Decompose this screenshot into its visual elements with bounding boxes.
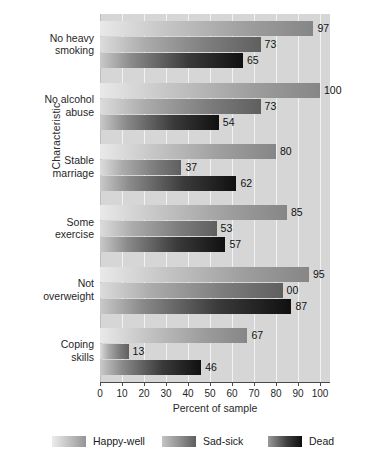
bar-value-label: 80 <box>280 144 292 159</box>
bar-value-label: 97 <box>317 21 329 36</box>
bar <box>100 115 219 130</box>
gridline-60 <box>232 14 233 382</box>
legend-item: Dead <box>268 435 334 447</box>
bar-value-label: 65 <box>247 53 259 68</box>
category-label-line: No alcohol <box>8 93 94 106</box>
bar <box>100 205 287 220</box>
bar-value-label: 100 <box>324 83 342 98</box>
x-tick-20 <box>144 382 145 386</box>
bar <box>100 283 283 298</box>
gridline-20 <box>144 14 145 382</box>
legend-label: Sad-sick <box>203 435 243 447</box>
bar <box>100 237 225 252</box>
gridline-0 <box>100 14 101 382</box>
bar <box>100 360 201 375</box>
bar-value-label: 62 <box>240 176 252 191</box>
x-tick-0 <box>100 382 101 386</box>
category-label-line: Not <box>8 277 94 290</box>
legend-swatch <box>268 436 302 447</box>
category-label-line: marriage <box>8 167 94 180</box>
legend-swatch <box>162 436 196 447</box>
bar <box>100 99 261 114</box>
bar-value-label: 87 <box>295 299 307 314</box>
x-tick-50 <box>210 382 211 386</box>
bar <box>100 299 291 314</box>
gridline-70 <box>254 14 255 382</box>
bar <box>100 344 129 359</box>
gridline-80 <box>276 14 277 382</box>
category-label-line: No heavy <box>8 32 94 45</box>
x-axis-title: Percent of sample <box>100 402 330 414</box>
bar <box>100 160 181 175</box>
x-axis-line <box>100 382 330 383</box>
bar-value-label: 46 <box>205 360 217 375</box>
bar-value-label: 57 <box>229 237 241 252</box>
category-label-line: skills <box>8 351 94 364</box>
category-label-line: exercise <box>8 228 94 241</box>
bar-value-label: 00 <box>287 283 299 298</box>
category-label-line: overweight <box>8 290 94 303</box>
bar <box>100 267 309 282</box>
bar-value-label: 85 <box>291 205 303 220</box>
bar <box>100 176 236 191</box>
category-label: Notoverweight <box>8 277 94 302</box>
bar <box>100 37 261 52</box>
category-label: No alcoholabuse <box>8 93 94 118</box>
bar-value-label: 95 <box>313 267 325 282</box>
x-tick-80 <box>276 382 277 386</box>
bar <box>100 221 217 236</box>
category-label: Someexercise <box>8 216 94 241</box>
legend-label: Dead <box>309 435 334 447</box>
category-label-line: smoking <box>8 44 94 57</box>
gridline-50 <box>210 14 211 382</box>
bar-value-label: 54 <box>223 115 235 130</box>
x-tick-60 <box>232 382 233 386</box>
x-tick-100 <box>320 382 321 386</box>
category-label-line: Coping <box>8 338 94 351</box>
bar <box>100 83 320 98</box>
legend-item: Happy-well <box>52 435 145 447</box>
bar-value-label: 67 <box>251 328 263 343</box>
category-label: Stablemarriage <box>8 154 94 179</box>
gridline-100 <box>320 14 321 382</box>
bar <box>100 328 247 343</box>
x-tick-label: 100 <box>307 388 333 399</box>
category-label-line: Some <box>8 216 94 229</box>
plot-area: 9773651007354803762855357950087671346 <box>100 14 330 382</box>
gridline-30 <box>166 14 167 382</box>
category-label-line: Stable <box>8 154 94 167</box>
x-tick-70 <box>254 382 255 386</box>
legend-label: Happy-well <box>93 435 145 447</box>
bar <box>100 53 243 68</box>
legend-item: Sad-sick <box>162 435 243 447</box>
x-tick-30 <box>166 382 167 386</box>
bar <box>100 21 313 36</box>
category-label: Copingskills <box>8 338 94 363</box>
x-tick-90 <box>298 382 299 386</box>
category-label-line: abuse <box>8 106 94 119</box>
legend-swatch <box>52 436 86 447</box>
gridline-10 <box>122 14 123 382</box>
chart-legend: Happy-wellSad-sickDead <box>0 435 367 455</box>
x-tick-10 <box>122 382 123 386</box>
bar-value-label: 73 <box>265 99 277 114</box>
bar <box>100 144 276 159</box>
category-label-column: No heavysmokingNo alcoholabuseStablemarr… <box>8 14 94 382</box>
bar-value-label: 13 <box>133 344 145 359</box>
category-label: No heavysmoking <box>8 32 94 57</box>
bar-value-label: 37 <box>185 160 197 175</box>
x-tick-40 <box>188 382 189 386</box>
bar-value-label: 53 <box>221 221 233 236</box>
gridline-90 <box>298 14 299 382</box>
gridline-40 <box>188 14 189 382</box>
bar-value-label: 73 <box>265 37 277 52</box>
